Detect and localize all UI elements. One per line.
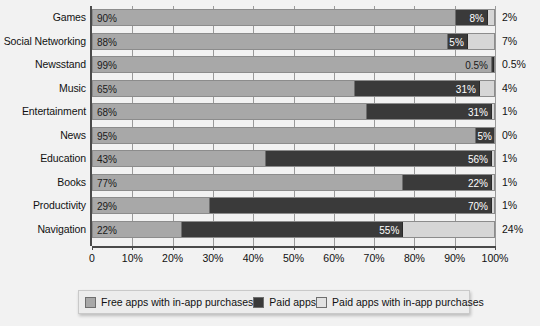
chart-row: Music65%31%4% xyxy=(0,77,540,101)
category-label: Newsstand xyxy=(0,53,86,77)
segment-value-free: 95% xyxy=(97,128,117,144)
segment-value-paid-with-iap: 1% xyxy=(502,194,517,218)
segment-paid-with-iap xyxy=(468,34,494,49)
category-label: Entertainment xyxy=(0,100,86,124)
x-axis-tick-label: 0 xyxy=(89,252,95,264)
x-axis-tick xyxy=(253,246,254,250)
category-label: Education xyxy=(0,147,86,171)
chart-row: News95%5%0% xyxy=(0,124,540,148)
paid-iap-swatch xyxy=(316,297,327,308)
segment-value-paid-with-iap: 0.5% xyxy=(502,53,526,77)
segment-free-with-iap xyxy=(93,10,456,25)
legend-item[interactable]: Paid apps with in-app purchases xyxy=(316,296,484,308)
category-label: Games xyxy=(0,6,86,30)
x-axis-tick xyxy=(294,246,295,250)
legend-item[interactable]: Free apps with in-app purchases xyxy=(85,296,253,308)
category-label: Navigation xyxy=(0,218,86,242)
legend-item[interactable]: Paid apps xyxy=(253,296,316,308)
x-axis-tick-label: 80% xyxy=(404,252,425,264)
chart-row: Education43%56%1% xyxy=(0,147,540,171)
chart-row: Social Networking88%5%7% xyxy=(0,30,540,54)
x-axis-line xyxy=(92,246,495,248)
segment-value-paid: 31% xyxy=(456,81,476,97)
segment-value-paid: 31% xyxy=(468,104,488,120)
x-axis-tick-label: 50% xyxy=(283,252,304,264)
stacked-bar: 99%0.5% xyxy=(92,56,495,73)
stacked-bar: 95%5% xyxy=(92,127,495,144)
chart-row: Games90%8%2% xyxy=(0,6,540,30)
segment-value-paid: 8% xyxy=(469,10,483,26)
segment-value-free: 99% xyxy=(97,57,117,73)
segment-value-paid-with-iap: 1% xyxy=(502,100,517,124)
x-axis-tick xyxy=(132,246,133,250)
segment-value-free: 88% xyxy=(97,34,117,50)
segment-value-paid-with-iap: 1% xyxy=(502,171,517,195)
legend-label: Paid apps with in-app purchases xyxy=(332,296,484,308)
segment-value-free: 29% xyxy=(97,198,117,214)
segment-paid-with-iap xyxy=(488,10,494,25)
segment-free-with-iap xyxy=(93,151,266,166)
segment-value-paid: 5% xyxy=(449,34,463,50)
segment-value-free: 65% xyxy=(97,81,117,97)
stacked-bar: 90%8% xyxy=(92,9,495,26)
x-axis-tick xyxy=(455,246,456,250)
chart-row: Newsstand99%0.5%0.5% xyxy=(0,53,540,77)
x-axis-tick-label: 90% xyxy=(444,252,465,264)
segment-paid-with-iap xyxy=(492,175,494,190)
category-label: Productivity xyxy=(0,194,86,218)
segment-value-paid: 55% xyxy=(379,222,399,238)
segment-value-paid: 70% xyxy=(468,198,488,214)
stacked-bar: 29%70% xyxy=(92,197,495,214)
segment-value-paid: 0.5% xyxy=(465,57,488,73)
legend-label: Paid apps xyxy=(269,296,316,308)
x-axis-tick xyxy=(92,246,93,250)
x-axis-tick-label: 100% xyxy=(482,252,509,264)
paid-swatch xyxy=(253,297,264,308)
segment-free-with-iap xyxy=(93,57,492,72)
segment-free-with-iap xyxy=(93,104,367,119)
x-axis-tick xyxy=(213,246,214,250)
stacked-bar-chart: Games90%8%2%Social Networking88%5%7%News… xyxy=(0,0,540,326)
segment-value-paid-with-iap: 24% xyxy=(502,218,523,242)
segment-paid xyxy=(182,222,404,237)
segment-value-free: 68% xyxy=(97,104,117,120)
category-label: Books xyxy=(0,171,86,195)
legend-label: Free apps with in-app purchases xyxy=(101,296,253,308)
stacked-bar: 22%55% xyxy=(92,221,495,238)
segment-free-with-iap xyxy=(93,128,476,143)
stacked-bar: 77%22% xyxy=(92,174,495,191)
category-label: Social Networking xyxy=(0,30,86,54)
x-axis-tick-label: 40% xyxy=(243,252,264,264)
x-axis-tick xyxy=(334,246,335,250)
segment-paid-with-iap xyxy=(492,104,494,119)
segment-paid-with-iap xyxy=(492,198,494,213)
x-axis-tick xyxy=(374,246,375,250)
segment-value-free: 77% xyxy=(97,175,117,191)
segment-free-with-iap xyxy=(93,81,355,96)
x-axis-tick xyxy=(414,246,415,250)
chart-row: Productivity29%70%1% xyxy=(0,194,540,218)
segment-value-paid-with-iap: 4% xyxy=(502,77,517,101)
plot-area: Games90%8%2%Social Networking88%5%7%News… xyxy=(0,6,540,246)
chart-row: Books77%22%1% xyxy=(0,171,540,195)
segment-value-free: 22% xyxy=(97,222,117,238)
chart-legend: Free apps with in-app purchasesPaid apps… xyxy=(78,290,470,314)
segment-free-with-iap xyxy=(93,34,448,49)
segment-value-paid-with-iap: 7% xyxy=(502,30,517,54)
segment-value-free: 90% xyxy=(97,10,117,26)
x-axis-tick xyxy=(173,246,174,250)
y-axis-line xyxy=(90,6,92,246)
stacked-bar: 65%31% xyxy=(92,80,495,97)
segment-paid-with-iap xyxy=(403,222,494,237)
stacked-bar: 68%31% xyxy=(92,103,495,120)
segment-paid-with-iap xyxy=(492,151,494,166)
segment-free-with-iap xyxy=(93,175,403,190)
segment-value-paid: 56% xyxy=(468,151,488,167)
segment-paid xyxy=(210,198,492,213)
x-axis-tick xyxy=(495,246,496,250)
segment-value-free: 43% xyxy=(97,151,117,167)
segment-value-paid-with-iap: 0% xyxy=(502,124,517,148)
category-label: News xyxy=(0,124,86,148)
x-axis-tick-label: 70% xyxy=(364,252,385,264)
segment-paid xyxy=(266,151,492,166)
